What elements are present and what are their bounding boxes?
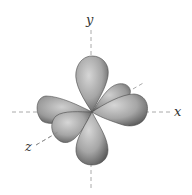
x-axis-label: x [174, 104, 182, 119]
z-axis-front [36, 132, 58, 145]
lobe-right [92, 94, 148, 126]
y-axis-label: y [85, 12, 94, 27]
orbital-svg: y x z [0, 0, 192, 195]
orbital-diagram: y x z [0, 0, 192, 195]
z-axis-label: z [24, 139, 32, 154]
